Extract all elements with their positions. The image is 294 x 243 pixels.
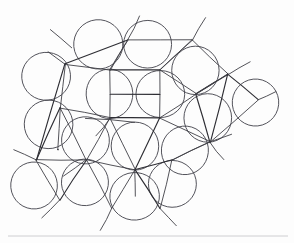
packed-circle [172, 46, 220, 95]
lattice-edge [160, 94, 196, 118]
tangent-ray [210, 134, 231, 142]
lattice-edge [36, 108, 60, 160]
tangent-ray [135, 170, 136, 197]
circle-lattice-diagram [0, 0, 294, 243]
lattice-edge [58, 108, 60, 149]
tangent-ray [128, 16, 140, 40]
packed-circle [159, 124, 210, 177]
packed-circle [123, 20, 171, 68]
lattice-edge [160, 40, 191, 70]
tangent-ray [210, 142, 224, 160]
tangent-ray [228, 62, 250, 75]
tangent-ray [14, 150, 36, 160]
packed-circle [24, 100, 74, 150]
lattice-edges-layer [36, 40, 259, 209]
tangent-ray [258, 92, 276, 100]
tangent-ray [160, 208, 177, 226]
lattice-edge [65, 64, 110, 70]
lattice-edge [110, 40, 127, 70]
lattice-edge [172, 142, 210, 161]
lattice-edge [160, 70, 197, 94]
circles-layer [9, 18, 281, 222]
lattice-edge [60, 108, 86, 160]
lattice-edge [60, 108, 110, 117]
figure-canvas [0, 0, 294, 243]
lattice-edge [210, 100, 258, 142]
lattice-edge [160, 118, 210, 141]
lattice-edge [36, 160, 87, 161]
lattice-edge [192, 40, 228, 74]
lattice-edge [160, 160, 171, 208]
tangent-ray [50, 30, 71, 48]
packed-circle [9, 160, 60, 211]
lattice-edge [86, 160, 136, 170]
tangent-ray [192, 18, 205, 41]
tangent-ray [100, 208, 112, 231]
tangent-ray [42, 200, 60, 218]
packed-circle [111, 122, 159, 170]
lattice-edge [60, 160, 87, 200]
packed-circle [60, 158, 110, 207]
lattice-edge [228, 74, 259, 100]
packed-circle [20, 50, 73, 102]
